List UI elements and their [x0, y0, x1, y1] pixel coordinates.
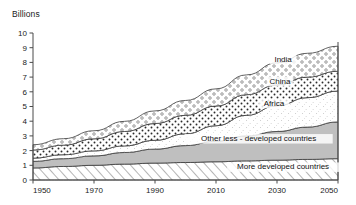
chart-canvas: 012345678910195019701990201020302050 Ind…: [0, 0, 356, 205]
series-label-africa: Africa: [264, 99, 285, 108]
series-label-other-less-developed-countries: Other less - developed countries: [201, 134, 316, 143]
y-tick-label: 9: [23, 44, 28, 53]
x-tick-label: 1970: [85, 186, 103, 195]
y-tick-label: 5: [23, 102, 28, 111]
y-tick-label: 6: [23, 88, 28, 97]
y-tick-label: 1: [23, 161, 28, 170]
x-tick-label: 1950: [33, 186, 51, 195]
y-tick-label: 7: [23, 73, 28, 82]
x-tick-label: 1990: [146, 186, 164, 195]
y-tick-label: 0: [23, 176, 28, 185]
y-tick-label: 8: [23, 58, 28, 67]
x-tick-label: 2030: [268, 186, 286, 195]
series-label-india: India: [274, 55, 292, 64]
series-label-china: China: [270, 77, 291, 86]
y-tick-label: 10: [18, 29, 27, 38]
y-tick-label: 2: [23, 147, 28, 156]
population-area-chart: Billions: [0, 0, 356, 205]
stacked-bands: [33, 46, 338, 180]
x-tick-label: 2010: [207, 186, 225, 195]
series-label-more-developed-countries: More developed countries: [237, 162, 329, 171]
y-tick-label: 3: [23, 132, 28, 141]
x-tick-label: 2050: [320, 186, 338, 195]
y-tick-label: 4: [23, 117, 28, 126]
